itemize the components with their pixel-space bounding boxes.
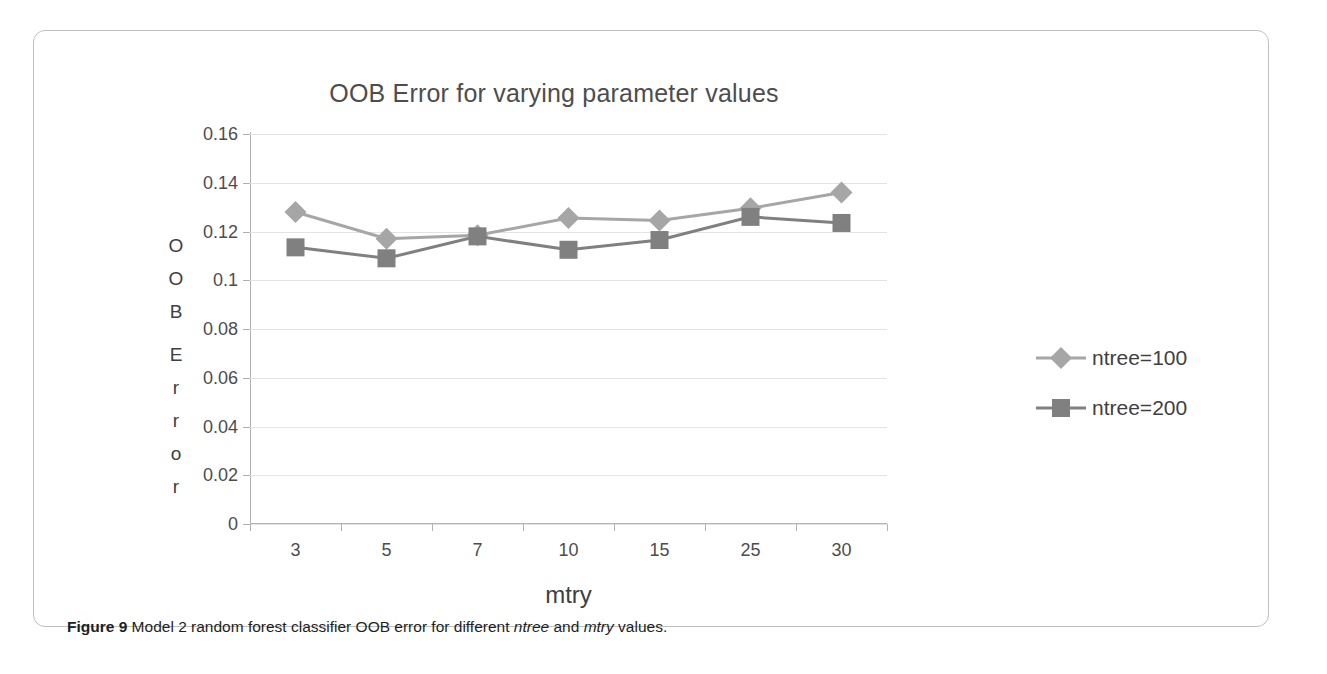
x-tick-2 [432,524,433,531]
data-point-s2-0 [287,238,305,256]
x-tick-label-3: 10 [558,540,578,561]
x-tick-1 [341,524,342,531]
caption-emphasis-mtry: mtry [584,618,614,635]
x-tick-label-5: 25 [740,540,760,561]
data-point-s1-4 [649,210,671,232]
data-point-s1-3 [558,207,580,229]
y-tick-label-6: 0.12 [203,221,238,242]
data-point-s1-0 [285,201,307,223]
y-axis-title-char-2: B [162,295,190,328]
x-tick-label-1: 5 [381,540,391,561]
legend-marker-2 [1052,399,1070,417]
figure-caption: Figure 9 Model 2 random forest classifie… [67,617,1247,638]
y-axis-title: OOBError [162,229,190,503]
y-tick-3 [243,378,250,379]
x-axis-title: mtry [250,581,887,609]
series-1 [285,182,853,250]
y-axis-title-char-5: r [162,371,190,404]
x-tick-3 [523,524,524,531]
y-tick-7 [243,183,250,184]
y-axis-title-char-8: r [162,470,190,503]
x-tick-label-6: 30 [831,540,851,561]
y-axis-title-char-1: O [162,262,190,295]
y-axis-title-char-7: o [162,437,190,470]
x-tick-5 [705,524,706,531]
legend-label-2: ntree=200 [1092,396,1187,420]
y-axis-title-char-4: E [162,338,190,371]
legend-label-1: ntree=100 [1092,346,1187,370]
y-tick-label-7: 0.14 [203,172,238,193]
legend-item-1[interactable]: ntree=100 [1034,333,1244,383]
series-plot [250,134,887,524]
x-tick-4 [614,524,615,531]
y-tick-label-0: 0 [228,514,238,535]
legend-item-2[interactable]: ntree=200 [1034,383,1244,433]
caption-figure-number: Figure 9 [67,618,127,635]
chart-figure: OOB Error for varying parameter values O… [34,31,1270,591]
caption-part-2: and [549,618,583,635]
y-tick-0 [243,524,250,525]
legend-marker-1 [1050,347,1072,369]
figure-frame: OOB Error for varying parameter values O… [33,30,1269,627]
data-point-s2-3 [560,241,578,259]
gridline-y-0 [250,524,887,525]
y-tick-label-3: 0.06 [203,367,238,388]
x-tick-0 [250,524,251,531]
y-tick-label-5: 0.1 [213,270,238,291]
y-tick-6 [243,232,250,233]
caption-part-1: Model 2 random forest classifier OOB err… [127,618,514,635]
y-axis-title-char-3 [162,328,190,338]
x-tick-label-0: 3 [290,540,300,561]
y-tick-label-8: 0.16 [203,124,238,145]
chart-title: OOB Error for varying parameter values [214,79,894,108]
x-tick-label-4: 15 [649,540,669,561]
chart-legend: ntree=100ntree=200 [1034,333,1244,433]
y-tick-label-1: 0.02 [203,465,238,486]
x-tick-label-2: 7 [472,540,482,561]
caption-part-3: values. [614,618,667,635]
data-point-s2-2 [469,227,487,245]
caption-emphasis-ntree: ntree [514,618,549,635]
data-point-s2-1 [378,249,396,267]
square-marker-icon [1034,395,1088,421]
y-tick-5 [243,280,250,281]
data-point-s2-4 [651,231,669,249]
x-tick-7 [887,524,888,531]
y-tick-label-2: 0.04 [203,416,238,437]
y-tick-4 [243,329,250,330]
data-point-s1-6 [831,182,853,204]
y-tick-2 [243,427,250,428]
data-point-s1-1 [376,228,398,250]
data-point-s2-5 [742,208,760,226]
y-tick-8 [243,134,250,135]
plot-area: 00.020.040.060.080.10.120.140.16 3571015… [250,134,887,524]
y-axis-title-char-6: r [162,404,190,437]
x-tick-6 [796,524,797,531]
diamond-marker-icon [1034,345,1088,371]
y-tick-1 [243,475,250,476]
y-tick-label-4: 0.08 [203,319,238,340]
y-axis-title-char-0: O [162,229,190,262]
data-point-s2-6 [833,214,851,232]
